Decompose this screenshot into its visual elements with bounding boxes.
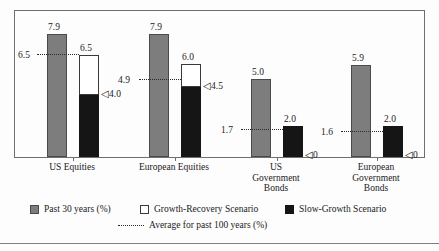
dotted-line-icon: [118, 225, 144, 226]
legend-label-past-30-years: Past 30 years (%): [44, 203, 111, 215]
legend-item-growth-recovery-scenario: Growth-Recovery Scenario: [140, 203, 258, 215]
bar-past30-european-equities: [149, 34, 169, 157]
avg100-label-european-equities: 4.9: [118, 75, 130, 85]
legend-label-growth-recovery-scenario: Growth-Recovery Scenario: [154, 203, 258, 215]
marker-slow-growth-us-government-bonds: ◁0: [305, 150, 318, 160]
x-axis-labels: US Equities European Equities US Governm…: [14, 162, 425, 200]
legend-label-slow-growth-scenario: Slow-Growth Scenario: [299, 203, 386, 215]
avg100-label-us-government-bonds: 1.7: [221, 125, 233, 135]
plot-area: 7.9 6.5 ◁4.0 6.5 7.9 6.0 ◁4.5 4.9 5.0 2.…: [14, 10, 425, 158]
bar-slow-growth-european-government-bonds: [383, 126, 403, 157]
gray-square-icon: [30, 205, 39, 214]
bar-slow-growth-us-government-bonds: [283, 126, 303, 157]
bar-past30-us-government-bonds: [251, 79, 271, 157]
axis-tick-european-government-bonds: [377, 157, 378, 161]
avg100-line-us-government-bonds: [241, 129, 283, 130]
axis-tick-us-equities: [73, 157, 74, 161]
bar-growth-recovery-european-equities: [181, 64, 201, 87]
axis-tick-european-equities: [175, 157, 176, 161]
marker-value-slow-growth-us-equities: 4.0: [109, 89, 121, 99]
marker-slow-growth-us-equities: ◁4.0: [101, 89, 121, 99]
bar-value-past30-us-equities: 7.9: [48, 22, 60, 32]
x-label-european-equities: European Equities: [124, 162, 224, 173]
bar-past30-european-government-bonds: [351, 65, 371, 157]
avg100-label-us-equities: 6.5: [18, 50, 30, 60]
x-label-european-government-bonds: European Government Bonds: [326, 162, 426, 194]
x-label-us-government-bonds: US Government Bonds: [226, 162, 326, 194]
bar-slow-growth-european-equities: [181, 87, 201, 157]
bar-value-growth-recovery-us-equities: 6.5: [80, 43, 92, 53]
avg100-line-european-equities: [139, 79, 181, 80]
bar-value-past30-european-equities: 7.9: [150, 22, 162, 32]
legend-item-average-past-100-years: Average for past 100 years (%): [118, 219, 267, 231]
chart-legend: Past 30 years (%) Growth-Recovery Scenar…: [0, 203, 439, 237]
marker-slow-growth-european-government-bonds: ◁0: [405, 150, 418, 160]
axis-tick-us-government-bonds: [277, 157, 278, 161]
marker-slow-growth-european-equities: ◁4.5: [203, 81, 223, 91]
marker-value-slow-growth-us-government-bonds: 0: [313, 150, 318, 160]
bottom-divider: [0, 243, 439, 244]
marker-value-slow-growth-european-equities: 4.5: [211, 81, 223, 91]
avg100-line-european-government-bonds: [341, 131, 383, 132]
legend-item-past-30-years: Past 30 years (%): [30, 203, 111, 215]
x-label-us-equities: US Equities: [22, 162, 122, 173]
bar-growth-recovery-us-equities: [79, 55, 99, 95]
legend-label-average-past-100-years: Average for past 100 years (%): [149, 219, 267, 231]
bar-value-past30-european-government-bonds: 5.9: [352, 53, 364, 63]
bar-value-growth-recovery-us-government-bonds: 2.0: [284, 114, 296, 124]
marker-value-slow-growth-european-government-bonds: 0: [413, 150, 418, 160]
chart-figure: 7.9 6.5 ◁4.0 6.5 7.9 6.0 ◁4.5 4.9 5.0 2.…: [0, 0, 439, 251]
black-square-icon: [285, 205, 294, 214]
bar-past30-us-equities: [47, 34, 67, 157]
avg100-line-us-equities: [37, 54, 79, 55]
white-square-icon: [140, 205, 149, 214]
legend-item-slow-growth-scenario: Slow-Growth Scenario: [285, 203, 386, 215]
bar-value-growth-recovery-european-equities: 6.0: [182, 52, 194, 62]
avg100-label-european-government-bonds: 1.6: [321, 127, 333, 137]
bar-slow-growth-us-equities: [79, 95, 99, 157]
bar-value-past30-us-government-bonds: 5.0: [252, 67, 264, 77]
bar-value-growth-recovery-european-government-bonds: 2.0: [384, 114, 396, 124]
